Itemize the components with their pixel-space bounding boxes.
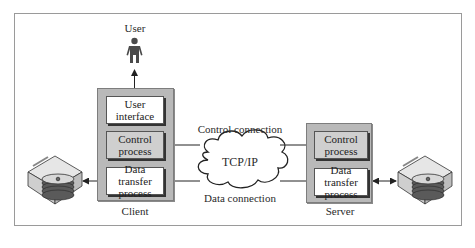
client-dtp-line2: process — [119, 187, 152, 199]
client-ui-line1: User — [125, 98, 146, 110]
client-cp-line1: Control — [118, 133, 152, 145]
client-label: Client — [115, 205, 155, 217]
data-connection-label: Data connection — [190, 192, 290, 204]
client-data-transfer-process: Data transfer process — [106, 167, 164, 195]
control-connection-label: Control connection — [190, 123, 290, 135]
server-dtp-line2: process — [325, 188, 358, 200]
server-control-process: Control process — [314, 131, 368, 159]
client-user-interface: User interface — [106, 96, 164, 124]
client-disk-drive-icon — [28, 156, 82, 204]
client-ui-line2: interface — [116, 110, 154, 122]
server-cp-line1: Control — [324, 133, 358, 145]
client-cp-line2: process — [119, 145, 152, 157]
server-label: Server — [320, 205, 360, 217]
server-dtp-line1: Data transfer — [315, 164, 367, 188]
person-icon — [127, 38, 143, 63]
server-cp-line2: process — [325, 145, 358, 157]
client-control-process: Control process — [106, 131, 164, 159]
tcp-ip-label: TCP/IP — [215, 155, 265, 170]
user-label: User — [119, 22, 151, 34]
server-data-transfer-process: Data transfer process — [314, 168, 368, 196]
client-dtp-line1: Data transfer — [107, 163, 163, 187]
server-disk-drive-icon — [398, 156, 452, 204]
